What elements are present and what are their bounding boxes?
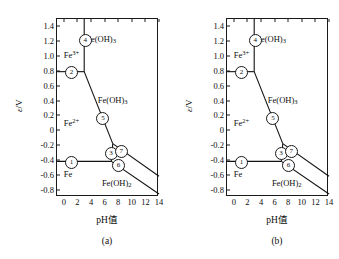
plot-area-b: 1.41.21.00.80.60.40.20-0.2-0.4-0.6-0.802… <box>226 18 328 196</box>
y-tick-label: 0 <box>50 126 54 135</box>
figure-pourbaix-diagrams: ε/V 1.41.21.00.80.60.40.20-0.2-0.4-0.6-0… <box>0 0 339 259</box>
plot-area-a: 1.41.21.00.80.60.40.20-0.2-0.4-0.6-0.802… <box>56 18 158 196</box>
x-tick-label: 8 <box>286 198 290 207</box>
species-label-FeOH3-middle: Fe(OH)3 <box>98 96 128 106</box>
y-tick-label: 0.8 <box>213 67 224 76</box>
species-label-Fe3plus-region: Fe3+ <box>64 50 79 60</box>
x-tick-label: 0 <box>62 198 66 207</box>
boundary-marker-7: 7 <box>115 145 128 158</box>
y-tick-label: 1.2 <box>213 37 224 46</box>
x-tick-label: 6 <box>102 198 106 207</box>
y-tick-label: 1.4 <box>213 22 224 31</box>
boundary-marker-6: 6 <box>282 159 295 172</box>
y-tick-label: -0.4 <box>41 156 54 165</box>
species-label-FeOH2-region: Fe(OH)2 <box>102 179 132 189</box>
y-tick-label: -0.6 <box>41 171 54 180</box>
boundary-marker-6: 6 <box>112 159 125 172</box>
x-tick-label: 2 <box>75 198 79 207</box>
panel-a: ε/V 1.41.21.00.80.60.40.20-0.2-0.4-0.6-0… <box>0 0 169 259</box>
x-tick-label: 12 <box>311 198 320 207</box>
y-tick-label: 1.0 <box>213 52 224 61</box>
x-tick-label: 12 <box>141 198 150 207</box>
y-tick-label: 1.0 <box>43 52 54 61</box>
species-label-FeOH2-region: Fe(OH)2 <box>272 179 302 189</box>
x-tick-label: 0 <box>232 198 236 207</box>
y-tick-label: 0.2 <box>43 111 54 120</box>
species-label-Fe-metal-region: Fe <box>64 170 73 179</box>
panel-caption-a: (a) <box>56 236 158 246</box>
y-tick-label: 0.8 <box>43 67 54 76</box>
y-tick-label: -0.4 <box>211 156 224 165</box>
panel-b: ε/V 1.41.21.00.80.60.40.20-0.2-0.4-0.6-0… <box>170 0 339 259</box>
y-axis-label: ε/V <box>14 99 24 112</box>
y-tick-label: -0.8 <box>211 185 224 194</box>
line-5-FeOH3-Fe2plus <box>84 72 113 144</box>
x-axis-label: pH值 <box>226 212 328 226</box>
y-tick-label: 0 <box>220 126 224 135</box>
y-axis-label: ε/V <box>184 99 194 112</box>
boundary-marker-4: 4 <box>249 34 262 47</box>
boundary-marker-1: 1 <box>235 156 248 169</box>
y-tick-label: 0.4 <box>213 96 224 105</box>
boundary-marker-4: 4 <box>79 34 92 47</box>
phase-boundary-lines <box>227 19 329 197</box>
x-tick-label: 14 <box>325 198 334 207</box>
y-tick-label: -0.2 <box>41 141 54 150</box>
x-tick-label: 14 <box>155 198 164 207</box>
x-tick-label: 6 <box>272 198 276 207</box>
species-label-Fe2plus-region: Fe2+ <box>234 118 249 128</box>
x-tick-label: 10 <box>128 198 137 207</box>
x-tick-label: 2 <box>245 198 249 207</box>
y-tick-label: 0.6 <box>213 82 224 91</box>
y-axis-label-symbol: ε <box>184 108 194 112</box>
y-axis-label-unit: /V <box>184 99 194 108</box>
species-label-Fe2plus-region: Fe2+ <box>64 118 79 128</box>
x-tick-label: 10 <box>298 198 307 207</box>
y-tick-label: -0.6 <box>211 171 224 180</box>
panel-caption-b: (b) <box>226 236 328 246</box>
species-label-FeOH3-middle: Fe(OH)3 <box>268 96 298 106</box>
x-tick-label: 4 <box>259 198 263 207</box>
y-axis-label-unit: /V <box>14 99 24 108</box>
boundary-marker-7: 7 <box>285 145 298 158</box>
line-5-FeOH3-Fe2plus <box>254 72 283 144</box>
boundary-marker-1: 1 <box>65 156 78 169</box>
y-tick-label: -0.2 <box>211 141 224 150</box>
y-tick-label: 1.2 <box>43 37 54 46</box>
x-axis-label: pH值 <box>56 212 158 226</box>
y-tick-label: 0.4 <box>43 96 54 105</box>
y-tick-label: 0.6 <box>43 82 54 91</box>
y-tick-label: 1.4 <box>43 22 54 31</box>
species-label-Fe-metal-region: Fe <box>234 170 243 179</box>
x-tick-label: 4 <box>89 198 93 207</box>
y-tick-label: 0.2 <box>213 111 224 120</box>
x-tick-label: 8 <box>116 198 120 207</box>
y-tick-label: -0.8 <box>41 185 54 194</box>
y-axis-label-symbol: ε <box>14 108 24 112</box>
species-label-Fe3plus-region: Fe3+ <box>234 50 249 60</box>
phase-boundary-lines <box>57 19 159 197</box>
